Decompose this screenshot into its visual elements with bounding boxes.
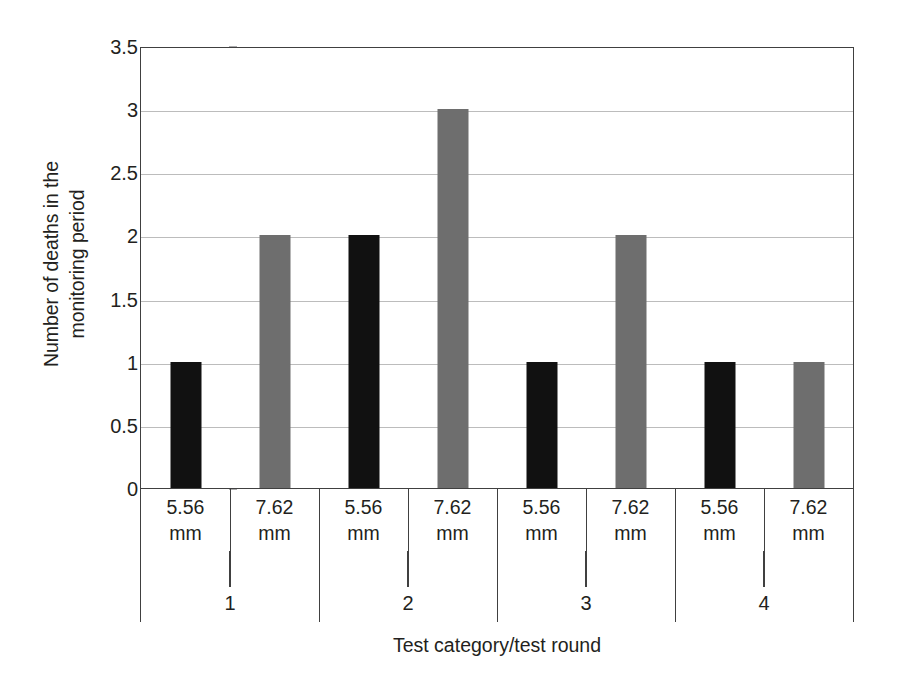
- y-axis-tick-label: 0: [127, 479, 138, 499]
- bar-slot: [586, 48, 675, 488]
- caliber-value: 5.56: [523, 494, 561, 520]
- group-label: 1: [224, 592, 235, 614]
- group-center-tick: [763, 551, 764, 587]
- caliber-unit: mm: [614, 520, 647, 546]
- group-label-cell: 1: [141, 551, 319, 622]
- bar[interactable]: [259, 235, 290, 488]
- bars-container: [141, 48, 853, 488]
- caliber-unit: mm: [792, 520, 825, 546]
- y-axis-tick-label: 0.5: [110, 416, 138, 436]
- caliber-unit: mm: [169, 520, 202, 546]
- caliber-label-cell: 7.62mm: [408, 489, 497, 551]
- caliber-value: 7.62: [434, 494, 472, 520]
- y-axis-title-line-2: monitoring period: [64, 190, 90, 339]
- group-separator: [319, 551, 320, 622]
- caliber-unit: mm: [436, 520, 469, 546]
- bar-slot: [141, 48, 230, 488]
- bar-slot: [497, 48, 586, 488]
- y-axis-tick-label: 3: [127, 100, 138, 120]
- x-axis-caliber-labels: 5.56mm7.62mm5.56mm7.62mm5.56mm7.62mm5.56…: [140, 489, 854, 551]
- group-separator: [497, 551, 498, 622]
- group-separator: [497, 489, 498, 551]
- caliber-label-cell: 5.56mm: [141, 489, 230, 551]
- caliber-value: 7.62: [612, 494, 650, 520]
- caliber-unit: mm: [703, 520, 736, 546]
- bar[interactable]: [704, 362, 735, 488]
- caliber-separator: [586, 489, 587, 551]
- bar-slot: [764, 48, 853, 488]
- bar[interactable]: [437, 109, 468, 488]
- group-label-cell: 2: [319, 551, 497, 622]
- caliber-unit: mm: [258, 520, 291, 546]
- caliber-value: 5.56: [167, 494, 205, 520]
- bar[interactable]: [170, 362, 201, 488]
- caliber-label-cell: 7.62mm: [230, 489, 319, 551]
- group-separator: [319, 489, 320, 551]
- y-axis-title-line-1: Number of deaths in the: [38, 161, 64, 367]
- y-axis-tick-label: 1.5: [110, 290, 138, 310]
- caliber-value: 7.62: [790, 494, 828, 520]
- caliber-label-cell: 5.56mm: [497, 489, 586, 551]
- y-axis-tick-label: 2.5: [110, 163, 138, 183]
- caliber-unit: mm: [347, 520, 380, 546]
- y-axis-tick-label: 3.5: [110, 37, 138, 57]
- caliber-label-cell: 7.62mm: [586, 489, 675, 551]
- group-label: 2: [402, 592, 413, 614]
- bar[interactable]: [793, 362, 824, 488]
- group-separator: [675, 489, 676, 551]
- bar[interactable]: [526, 362, 557, 488]
- plot-area: [140, 47, 854, 489]
- group-label-cell: 4: [675, 551, 853, 622]
- caliber-value: 7.62: [256, 494, 294, 520]
- caliber-unit: mm: [525, 520, 558, 546]
- bar[interactable]: [615, 235, 646, 488]
- bar-chart-figure: Number of deaths in the monitoring perio…: [0, 0, 898, 677]
- group-center-tick: [229, 551, 230, 587]
- group-label: 3: [580, 592, 591, 614]
- caliber-value: 5.56: [701, 494, 739, 520]
- caliber-value: 5.56: [345, 494, 383, 520]
- x-axis-group-labels: 1234: [140, 551, 854, 622]
- group-label-cell: 3: [497, 551, 675, 622]
- y-axis-tick-label: 1: [127, 353, 138, 373]
- bar-slot: [230, 48, 319, 488]
- caliber-separator: [230, 489, 231, 551]
- caliber-label-cell: 5.56mm: [675, 489, 764, 551]
- caliber-separator: [764, 489, 765, 551]
- y-axis-tick-labels: 00.511.522.533.5: [96, 47, 138, 489]
- group-center-tick: [585, 551, 586, 587]
- bar-slot: [408, 48, 497, 488]
- caliber-label-cell: 7.62mm: [764, 489, 853, 551]
- group-center-tick: [407, 551, 408, 587]
- caliber-separator: [408, 489, 409, 551]
- y-axis-tick-label: 2: [127, 226, 138, 246]
- bar[interactable]: [348, 235, 379, 488]
- bar-slot: [675, 48, 764, 488]
- caliber-label-cell: 5.56mm: [319, 489, 408, 551]
- y-axis-title: Number of deaths in the monitoring perio…: [36, 114, 92, 414]
- group-separator: [675, 551, 676, 622]
- group-label: 4: [758, 592, 769, 614]
- bar-slot: [319, 48, 408, 488]
- x-axis-title: Test category/test round: [140, 632, 854, 658]
